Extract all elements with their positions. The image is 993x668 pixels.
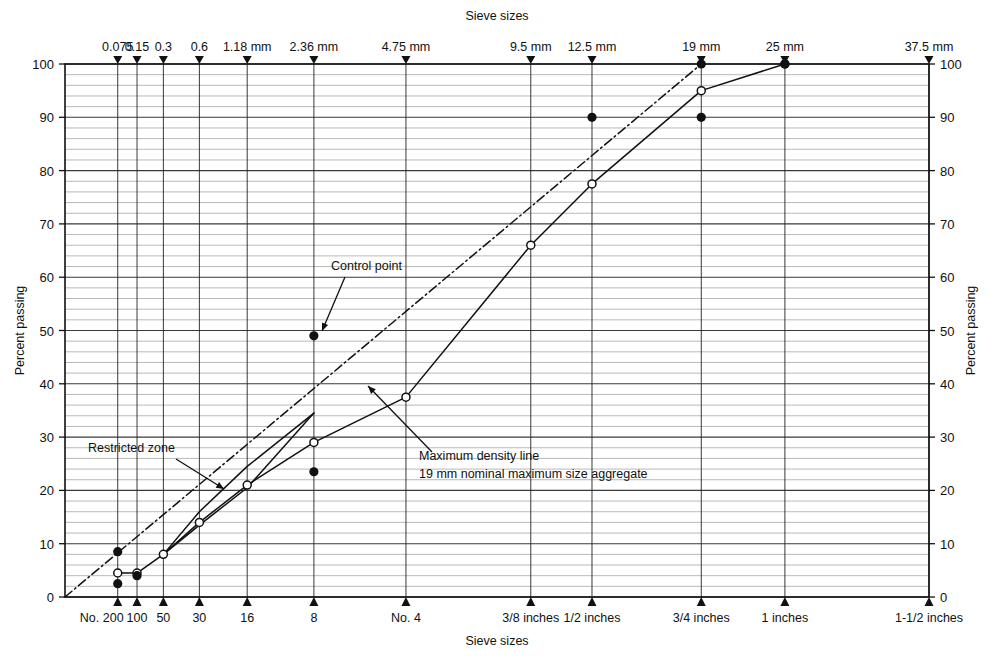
annotation-restricted-zone: Restricted zone <box>88 441 175 455</box>
top-axis-title: Sieve sizes <box>465 9 528 23</box>
top-tick-label: 19 mm <box>682 40 720 54</box>
top-tick-label: 25 mm <box>766 40 804 54</box>
control-point <box>309 467 318 476</box>
bottom-tick-label: 8 <box>310 611 317 625</box>
control-point <box>309 331 318 340</box>
y-tick-label-left: 20 <box>40 483 54 498</box>
data-marker <box>697 87 705 95</box>
top-tick-label: 1.18 mm <box>223 40 272 54</box>
y-tick-label-left: 0 <box>47 590 54 605</box>
bottom-tick-label: 1-1/2 inches <box>895 611 963 625</box>
bottom-tick-label: 50 <box>156 611 170 625</box>
annotation-nominal-size: 19 mm nominal maximum size aggregate <box>419 467 648 481</box>
annotation-control-point: Control point <box>331 259 402 273</box>
data-marker <box>195 518 203 526</box>
y-tick-label-left: 80 <box>40 164 54 179</box>
data-marker <box>159 550 167 558</box>
y-tick-label-right: 60 <box>940 270 954 285</box>
y-tick-label-left: 10 <box>40 537 54 552</box>
data-marker <box>402 393 410 401</box>
y-tick-label-left: 40 <box>40 377 54 392</box>
bottom-tick-label: 1 inches <box>762 611 809 625</box>
y-tick-label-right: 40 <box>940 377 954 392</box>
top-tick-label: 37.5 mm <box>905 40 954 54</box>
y-tick-label-left: 90 <box>40 110 54 125</box>
top-tick-label: 4.75 mm <box>382 40 431 54</box>
data-marker <box>527 241 535 249</box>
data-marker <box>310 438 318 446</box>
control-point <box>113 579 122 588</box>
y-tick-label-right: 100 <box>940 57 962 72</box>
y-tick-label-right: 50 <box>940 324 954 339</box>
bottom-axis-title: Sieve sizes <box>465 634 528 648</box>
control-point <box>113 547 122 556</box>
top-tick-label: 0.6 <box>191 40 208 54</box>
chart-background <box>0 0 993 668</box>
top-tick-label: 0.3 <box>155 40 172 54</box>
y-tick-label-right: 0 <box>940 590 947 605</box>
bottom-tick-label: 3/4 inches <box>673 611 730 625</box>
data-marker <box>114 569 122 577</box>
top-tick-label: 9.5 mm <box>510 40 552 54</box>
top-tick-label: 2.36 mm <box>290 40 339 54</box>
y-tick-label-left: 70 <box>40 217 54 232</box>
y-tick-label-right: 20 <box>940 483 954 498</box>
bottom-tick-label: No. 200 <box>80 611 124 625</box>
right-axis-title: Percent passing <box>964 286 978 376</box>
control-point <box>697 113 706 122</box>
y-tick-label-left: 30 <box>40 430 54 445</box>
left-axis-title: Percent passing <box>13 286 27 376</box>
bottom-tick-label: 30 <box>192 611 206 625</box>
y-tick-label-left: 60 <box>40 270 54 285</box>
y-tick-label-right: 70 <box>940 217 954 232</box>
bottom-tick-label: No. 4 <box>391 611 421 625</box>
chart-canvas: 0.0750.150.30.61.18 mm2.36 mm4.75 mm9.5 … <box>0 0 993 668</box>
bottom-tick-label: 3/8 inches <box>502 611 559 625</box>
gradation-chart: 0.0750.150.30.61.18 mm2.36 mm4.75 mm9.5 … <box>0 0 993 668</box>
y-tick-label-right: 30 <box>940 430 954 445</box>
bottom-tick-label: 100 <box>127 611 148 625</box>
annotation-maximum-density-line: Maximum density line <box>419 449 539 463</box>
control-point <box>780 59 789 68</box>
control-point <box>587 113 596 122</box>
data-marker <box>588 180 596 188</box>
control-point <box>132 571 141 580</box>
bottom-tick-label: 16 <box>240 611 254 625</box>
y-tick-label-left: 50 <box>40 324 54 339</box>
y-tick-label-left: 100 <box>32 57 54 72</box>
y-tick-label-right: 90 <box>940 110 954 125</box>
data-marker <box>243 481 251 489</box>
control-point <box>697 59 706 68</box>
bottom-tick-label: 1/2 inches <box>564 611 621 625</box>
top-tick-label: 12.5 mm <box>568 40 617 54</box>
y-tick-label-right: 80 <box>940 164 954 179</box>
top-tick-label: 0.15 <box>125 40 149 54</box>
y-tick-label-right: 10 <box>940 537 954 552</box>
